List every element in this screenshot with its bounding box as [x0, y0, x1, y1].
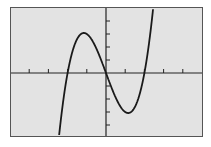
- function-graph: [0, 0, 211, 147]
